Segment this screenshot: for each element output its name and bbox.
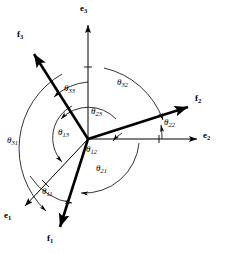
angle-label-theta32: θ32 xyxy=(117,78,128,87)
angle-label-theta21: θ21 xyxy=(96,164,107,173)
angle-arc-theta31 xyxy=(19,74,62,211)
vector-label-e1: e1 xyxy=(4,211,11,220)
vector-label-f3: f3 xyxy=(17,30,23,39)
angle-label-theta31: θ31 xyxy=(7,136,18,145)
angle-arc-theta32 xyxy=(104,68,163,120)
vector-label-e3: e3 xyxy=(80,4,87,13)
angle-arc-theta22 xyxy=(161,125,162,139)
axis-line-f1 xyxy=(60,139,88,227)
angle-label-theta23: θ23 xyxy=(91,107,102,116)
angle-arc-theta12 xyxy=(113,133,122,141)
vector-angle-diagram: e3 e2 e1 f3 f2 f1 θ33 θ32 θ23 θ13 θ12 θ2… xyxy=(0,0,229,254)
diagram-canvas xyxy=(0,0,229,254)
angle-label-theta12: θ12 xyxy=(86,145,97,154)
angle-label-theta13: θ13 xyxy=(58,128,69,137)
vector-label-f1: f1 xyxy=(47,234,53,243)
angle-label-theta22: θ22 xyxy=(164,118,175,127)
vector-label-e2: e2 xyxy=(203,131,210,140)
vector-label-f2: f2 xyxy=(195,94,201,103)
angle-label-theta11: θ11 xyxy=(42,187,52,196)
angle-label-theta33: θ33 xyxy=(64,84,75,93)
